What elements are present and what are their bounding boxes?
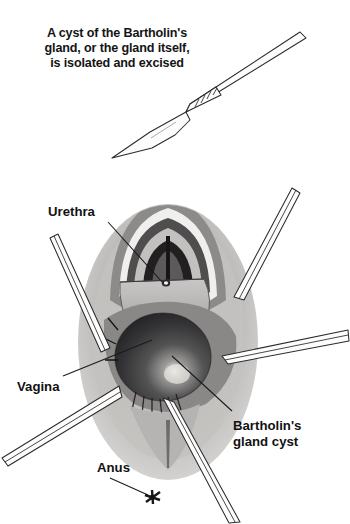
caption-line-1: A cyst of the Bartholin's: [47, 26, 187, 40]
label-bartholins-cyst-line2: gland cyst: [233, 434, 299, 449]
caption-line-3: is isolated and excised: [50, 56, 184, 70]
urethral-meatus-lumen: [164, 281, 168, 284]
caption-line-2: gland, or the gland itself,: [45, 41, 190, 55]
caption-block: A cyst of the Bartholin's gland, or the …: [45, 26, 190, 70]
label-urethra: Urethra: [48, 204, 96, 219]
label-anus: Anus: [97, 460, 130, 475]
bartholin-cyst-excision-illustration: A cyst of the Bartholin's gland, or the …: [0, 0, 350, 524]
label-bartholins-cyst-line1: Bartholin's: [233, 418, 301, 433]
label-vagina: Vagina: [17, 379, 60, 394]
cyst-specular-highlight: [164, 364, 190, 384]
